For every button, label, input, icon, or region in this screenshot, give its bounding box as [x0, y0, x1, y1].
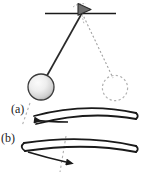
curved-arrow-band-a-outer [34, 108, 136, 116]
curved-arrow-band-a-inner [36, 115, 136, 124]
curved-arrow-band-b-left-cap [22, 143, 25, 151]
pendulum-figure: (a) (b) [0, 0, 141, 175]
pendulum-string-dashed [82, 13, 113, 78]
curved-arrow-band-b-cap [136, 146, 138, 152]
curved-arrow-band-a-cap [136, 113, 138, 119]
figure-label-a: (a) [11, 103, 24, 115]
curved-arrow-band-b-outer [24, 139, 136, 146]
curved-arrow-band-b-arrow [28, 152, 66, 162]
pendulum-bob-ghost [102, 75, 127, 100]
pendulum-string-solid [44, 13, 82, 81]
figure-label-b: (b) [1, 132, 15, 144]
pendulum-diagram-svg [0, 0, 141, 175]
pivot-tick-dashed [82, 15, 84, 24]
curved-arrow-band-b-inner [25, 147, 136, 152]
dashed-reference-line-b [60, 136, 66, 172]
pendulum-bob [28, 74, 54, 100]
